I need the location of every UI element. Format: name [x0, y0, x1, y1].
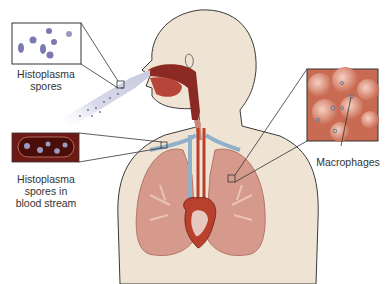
spores-label: Histoplasma spores — [10, 68, 82, 92]
anatomy-illustration — [0, 0, 388, 284]
blood-label-line3: blood stream — [8, 197, 84, 209]
blood-label-line1: Histoplasma — [8, 173, 84, 185]
macrophages-label: Macrophages — [312, 156, 384, 168]
blood-label-line2: spores in — [8, 185, 84, 197]
blood-stream-label: Histoplasma spores in blood stream — [8, 173, 84, 209]
histoplasmosis-diagram: Histoplasma spores Histoplasma spores in… — [0, 0, 388, 284]
spores-label-line2: spores — [10, 80, 82, 92]
spores-label-line1: Histoplasma — [10, 68, 82, 80]
